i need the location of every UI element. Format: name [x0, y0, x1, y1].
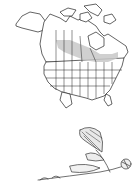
range-map [0, 0, 137, 110]
plant-sketch [0, 110, 137, 181]
north-america-map [0, 0, 137, 110]
plant-illustration [0, 110, 137, 181]
